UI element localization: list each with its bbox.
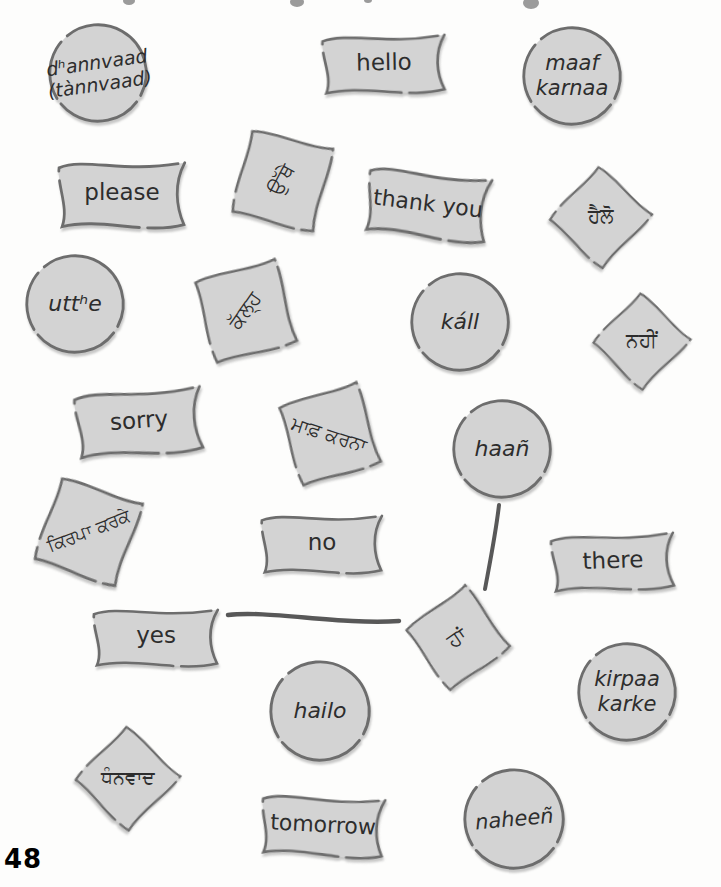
card-label-english: yes	[136, 622, 176, 649]
card-naheen-roman: naheeñ	[461, 766, 567, 872]
card-label-roman: hailo	[293, 698, 346, 724]
card-kall-roman: káll	[408, 270, 512, 374]
cropped-text-fragment	[523, 0, 539, 9]
cropped-text-fragment	[364, 0, 372, 3]
card-thank-you-english: thank you	[359, 158, 497, 248]
card-naheen-gurmukhi: ਨਹੀਂ	[585, 284, 697, 396]
page-number: 48	[4, 844, 42, 874]
card-label-roman: káll	[441, 309, 479, 335]
card-utthe-roman: uttʰe	[23, 252, 127, 356]
card-dhannvaad-roman: dʰannvaad (tànnvaad)	[46, 21, 150, 125]
card-label-roman: maaf karnaa	[536, 51, 609, 101]
card-label-gurmukhi: ਧੰਨਵਾਦ	[100, 766, 154, 788]
card-hailo-gurmukhi: ਹੈਲੋ	[541, 157, 658, 274]
page: 48 dʰannvaad (tànnvaad)hellomaaf karnaap…	[0, 0, 721, 887]
card-haan-roman: haañ	[450, 397, 554, 501]
card-yes-english: yes	[90, 604, 222, 669]
card-dhannvaad-gurmukhi: ਧੰਨਵਾਦ	[67, 717, 187, 837]
card-kirpaa-karke-roman: kirpaa karke	[575, 640, 679, 744]
card-haan-gurmukhi: ਹਾਂ	[397, 578, 517, 698]
card-label-english: no	[308, 529, 337, 556]
card-there-english: there	[547, 527, 679, 595]
card-label-roman: haañ	[475, 436, 530, 462]
card-please-english: please	[55, 156, 189, 231]
card-kall-gurmukhi: ਕੱਲ੍ਹ	[187, 253, 303, 369]
card-label-roman: uttʰe	[48, 291, 102, 317]
card-utthe-gurmukhi: ਉੱਥੇ	[223, 121, 341, 239]
card-label-english: sorry	[109, 405, 169, 436]
card-no-english: no	[258, 510, 386, 576]
card-label-gurmukhi: ਹੈਲੋ	[587, 204, 613, 228]
card-label-english: hello	[356, 49, 412, 77]
card-label-english: tomorrow	[270, 809, 377, 840]
card-label-english: please	[84, 179, 159, 206]
card-label-roman: kirpaa karke	[594, 667, 660, 717]
card-hello-english: hello	[318, 29, 449, 97]
card-maaf-karnaa-gurmukhi: ਮਾਫ਼ ਕਰਨਾ	[271, 376, 387, 492]
card-kirpaa-karke-gurmukhi: ਕਿਰਪਾ ਕਰਕੇ	[25, 468, 151, 594]
card-hailo-roman: hailo	[267, 658, 373, 764]
pencil-line-yes-to-haan	[228, 614, 399, 622]
cropped-text-fragment	[123, 0, 135, 5]
card-label-english: there	[582, 546, 644, 575]
card-maaf-karnaa-roman: maaf karnaa	[520, 24, 624, 128]
cropped-text-fragment	[290, 0, 304, 7]
card-sorry-english: sorry	[70, 379, 209, 462]
pencil-line-haan-circle-to-haan-diamond	[485, 505, 499, 589]
card-label-gurmukhi: ਨਹੀਂ	[626, 328, 657, 352]
card-tomorrow-english: tomorrow	[256, 788, 389, 863]
